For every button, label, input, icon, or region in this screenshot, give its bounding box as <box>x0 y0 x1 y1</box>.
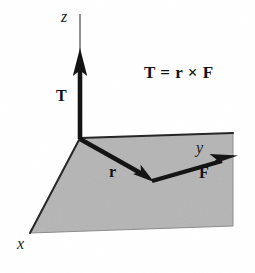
z-axis-label: z <box>61 9 67 25</box>
torque-equation-label: T = r × F <box>144 64 214 81</box>
position-vector-label: r <box>109 164 116 180</box>
torque-diagram-canvas <box>0 0 255 273</box>
x-axis-label: x <box>17 236 24 252</box>
torque-vector-label: T <box>56 88 67 104</box>
force-vector-label: F <box>199 165 209 181</box>
y-axis-label: y <box>196 140 203 156</box>
torque-diagram: z x y T r F T = r × F <box>0 0 255 273</box>
